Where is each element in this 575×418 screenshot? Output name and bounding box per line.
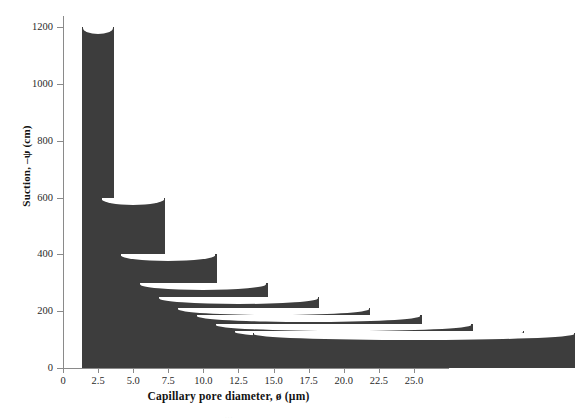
x-tick — [133, 368, 134, 373]
meniscus — [159, 297, 317, 304]
y-tick-label: 400 — [3, 249, 53, 259]
bar — [253, 333, 575, 368]
x-tick-label: 7.5 — [148, 375, 188, 387]
x-tick — [168, 368, 169, 373]
meniscus — [121, 254, 215, 261]
x-axis-line — [63, 368, 449, 369]
x-tick — [379, 368, 380, 373]
meniscus — [216, 324, 471, 331]
plot-area — [63, 16, 435, 368]
meniscus — [102, 198, 164, 205]
x-tick — [238, 368, 239, 373]
x-tick — [203, 368, 204, 373]
meniscus — [254, 333, 574, 340]
x-tick — [344, 368, 345, 373]
x-tick-label: 25.0 — [394, 375, 434, 387]
y-tick-label: 200 — [3, 306, 53, 316]
y-axis-title: Suction, –ψ (cm) — [20, 96, 32, 236]
x-tick — [414, 368, 415, 373]
x-tick-label: 22.5 — [359, 375, 399, 387]
y-tick-label: 1200 — [3, 22, 53, 32]
x-tick — [309, 368, 310, 373]
y-tick-label: 1000 — [3, 79, 53, 89]
x-tick — [63, 368, 64, 373]
figure-caption: ... — [0, 409, 457, 418]
meniscus — [140, 283, 266, 290]
x-tick-label: 12.5 — [218, 375, 258, 387]
meniscus — [197, 315, 420, 322]
x-tick-label: 0 — [43, 375, 83, 387]
x-tick-label: 17.5 — [289, 375, 329, 387]
y-tick-label: 0 — [3, 363, 53, 373]
x-tick-label: 2.5 — [78, 375, 118, 387]
x-tick-label: 10.0 — [183, 375, 223, 387]
x-axis-title: Capillary pore diameter, ø (µm) — [0, 390, 457, 402]
x-tick-label: 20.0 — [324, 375, 364, 387]
x-tick — [274, 368, 275, 373]
x-tick-label: 15.0 — [254, 375, 294, 387]
meniscus — [178, 308, 369, 315]
x-tick-label: 5.0 — [113, 375, 153, 387]
x-tick — [98, 368, 99, 373]
meniscus — [83, 27, 112, 34]
